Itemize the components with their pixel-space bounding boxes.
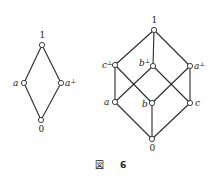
- edge-1-bperp: [153, 30, 154, 66]
- node-a-perp: [58, 80, 63, 85]
- edge-a-0: [24, 83, 41, 120]
- node-top: [151, 27, 156, 32]
- node-b: [149, 100, 154, 105]
- figure-canvas: 1 a a⊥ 0 1 c⊥ b⊥ a⊥ a b c 0: [0, 0, 217, 178]
- edge-c-0: [152, 103, 190, 139]
- label-a-perp: a⊥: [65, 77, 76, 88]
- left-lattice: 1 a a⊥ 0: [13, 30, 76, 134]
- right-lattice: 1 c⊥ b⊥ a⊥ a b c 0: [102, 15, 205, 153]
- node-bottom: [149, 136, 154, 141]
- node-c: [187, 100, 192, 105]
- node-top: [39, 42, 44, 47]
- node-a: [21, 80, 26, 85]
- node-a-perp: [187, 63, 192, 68]
- edge-1-aperp: [154, 30, 190, 66]
- label-c: c: [195, 98, 200, 108]
- node-bottom: [38, 117, 43, 122]
- label-a: a: [104, 97, 109, 107]
- caption-label: 図: [95, 160, 104, 170]
- edge-1-a: [24, 45, 42, 83]
- figure-caption: 図 6: [95, 160, 126, 170]
- label-a-perp: a⊥: [194, 60, 205, 71]
- label-c-perp: c⊥: [102, 59, 113, 70]
- node-c-perp: [112, 62, 117, 67]
- label-a: a: [13, 78, 18, 88]
- caption-number: 6: [120, 160, 126, 170]
- node-b-perp: [150, 63, 155, 68]
- label-bottom: 0: [150, 143, 156, 153]
- label-top: 1: [40, 30, 46, 40]
- node-a: [112, 99, 117, 104]
- edge-1-aperp: [42, 45, 61, 83]
- label-b: b: [142, 99, 148, 109]
- edge-aperp-0: [41, 83, 61, 120]
- label-b-perp: b⊥: [139, 57, 150, 68]
- label-bottom: 0: [39, 124, 45, 134]
- label-top: 1: [152, 15, 158, 25]
